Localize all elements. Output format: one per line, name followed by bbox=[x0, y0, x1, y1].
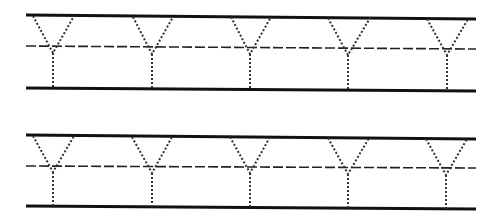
dotted-letter-y[interactable] bbox=[230, 137, 270, 207]
dashed-midline bbox=[26, 166, 476, 168]
handwriting-worksheet bbox=[0, 0, 497, 223]
letter-trace-path bbox=[33, 136, 74, 206]
dotted-letter-y[interactable] bbox=[426, 139, 467, 209]
top-guide-line bbox=[26, 135, 476, 139]
dotted-letter-y[interactable] bbox=[328, 138, 369, 208]
letter-trace-path bbox=[230, 137, 270, 207]
letter-trace-path bbox=[133, 17, 173, 89]
practice-row-1 bbox=[26, 15, 476, 91]
letter-trace-path bbox=[426, 139, 467, 209]
letter-trace-path bbox=[132, 137, 172, 207]
dotted-letter-y[interactable] bbox=[231, 17, 271, 89]
dotted-letter-y[interactable] bbox=[133, 17, 173, 89]
dotted-letter-y[interactable] bbox=[427, 19, 468, 91]
letter-trace-path bbox=[328, 138, 369, 208]
dotted-letter-y[interactable] bbox=[33, 136, 74, 206]
tracing-practice-canvas bbox=[0, 0, 497, 223]
dotted-letter-y[interactable] bbox=[33, 16, 74, 88]
practice-row-2 bbox=[26, 135, 476, 209]
letter-trace-path bbox=[328, 18, 370, 90]
top-guide-line bbox=[26, 15, 476, 19]
dotted-letter-y[interactable] bbox=[328, 18, 370, 90]
dashed-midline bbox=[26, 46, 476, 49]
letter-trace-path bbox=[33, 16, 74, 88]
dotted-letter-y[interactable] bbox=[132, 137, 172, 207]
letter-trace-path bbox=[231, 17, 271, 89]
baseline bbox=[26, 88, 476, 91]
letter-trace-path bbox=[427, 19, 468, 91]
